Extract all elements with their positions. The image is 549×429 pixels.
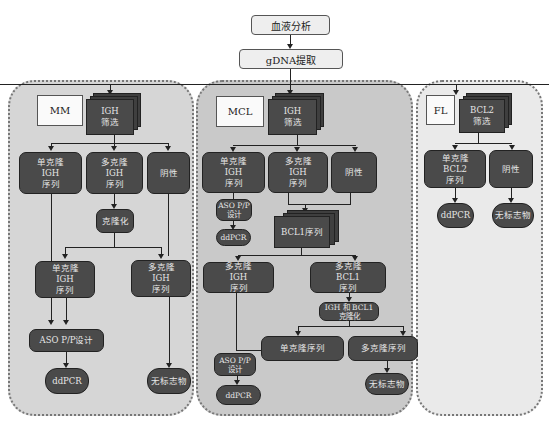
mcl-bcl1-seq-label: BCL1序列	[281, 227, 323, 238]
mcl-poly-seq-node: 多克隆序列	[348, 336, 418, 361]
mcl-poly-igh-label: 多克隆 IGH 序列	[285, 156, 312, 189]
mm-no-marker-label: 无标志物	[151, 376, 187, 387]
mcl-bcl1-seq-node: BCL1序列	[274, 216, 330, 248]
mcl-negative-label: 阴性	[345, 167, 363, 178]
arrow-icon	[165, 146, 171, 151]
arrow-icon	[48, 320, 54, 325]
mcl-mono-seq-node: 单克隆序列	[261, 336, 344, 361]
mm-cloning-node: 克隆化	[96, 209, 134, 233]
connector	[297, 135, 298, 145]
connector	[455, 143, 512, 144]
mcl-label: MCL	[228, 106, 253, 117]
blood-analysis-box: 血液分析	[251, 15, 330, 35]
arrow-icon	[111, 146, 117, 151]
mcl-aso-design-top-label: ASO P/P 设计	[218, 201, 250, 219]
connector	[236, 293, 237, 351]
mm-poly-igh-node-2: 多克隆 IGH 序列	[131, 260, 191, 297]
fl-bcl2-screening-node: BCL2 筛选	[459, 99, 505, 133]
mcl-poly-bcl1-node: 多克隆 BCL1 序列	[310, 262, 386, 293]
mm-negative-node: 阴性	[147, 152, 190, 194]
mcl-mono-seq-label: 单克隆序列	[280, 343, 325, 354]
mcl-poly-igh-node-2: 多克隆 IGH 序列	[203, 262, 274, 293]
distribution-line	[110, 84, 449, 85]
gdna-extraction-box: gDNA提取	[239, 49, 343, 69]
mcl-poly-igh-node: 多克隆 IGH 序列	[268, 152, 328, 193]
arrow-icon	[63, 320, 69, 325]
fl-no-marker-node: 无标志物	[492, 203, 534, 228]
fl-ddpcr-node: ddPCR	[437, 203, 474, 228]
blood-analysis-label: 血液分析	[271, 18, 311, 33]
fl-label: FL	[434, 105, 448, 116]
mcl-aso-design-top-node: ASO P/P 设计	[216, 199, 252, 221]
mm-mono-igh-label-2: 单克隆 IGH 序列	[52, 263, 79, 296]
connector	[51, 143, 169, 144]
connector	[288, 204, 351, 205]
connector	[288, 193, 289, 204]
connector	[301, 248, 302, 255]
connector	[66, 298, 67, 320]
mm-aso-design-label: ASO P/P设计	[40, 335, 94, 346]
connector	[51, 194, 52, 320]
mcl-igh-bcl1-cloning-node: IGH 和 BCL1 克隆化	[319, 302, 379, 321]
connector	[233, 145, 356, 146]
mcl-igh-bcl1-cloning-label: IGH 和 BCL1 克隆化	[325, 303, 373, 321]
mcl-poly-igh-label-2: 多克隆 IGH 序列	[225, 261, 252, 294]
fl-mono-bcl2-node: 单克隆 BCL2 序列	[424, 150, 486, 188]
mcl-mono-igh-label: 单克隆 IGH 序列	[220, 156, 247, 189]
mcl-ddpcr-bottom-label: ddPCR	[225, 390, 251, 401]
mm-negative-label: 阴性	[160, 168, 178, 179]
fl-negative-label: 阴性	[502, 164, 520, 175]
fl-label-box: FL	[426, 95, 455, 125]
mm-poly-igh-label-2: 多克隆 IGH 序列	[148, 262, 175, 295]
mm-label-box: MM	[37, 95, 83, 126]
mm-cloning-label: 克隆化	[102, 216, 129, 227]
fl-no-marker-label: 无标志物	[495, 210, 531, 221]
connector	[478, 133, 479, 143]
mm-mono-igh-label: 单克隆 IGH 序列	[37, 157, 64, 190]
arrow-icon	[62, 254, 68, 259]
mm-poly-igh-label: 多克隆 IGH 序列	[101, 157, 128, 190]
connector	[114, 233, 115, 247]
mm-poly-igh-node: 多克隆 IGH 序列	[86, 152, 143, 194]
mm-mono-igh-node-2: 单克隆 IGH 序列	[35, 261, 95, 298]
connector	[168, 194, 169, 256]
mcl-ddpcr-top-label: ddPCR	[220, 232, 246, 243]
mcl-mono-igh-node: 单克隆 IGH 序列	[202, 152, 265, 193]
connector	[236, 350, 261, 351]
fl-negative-node: 阴性	[489, 150, 533, 188]
mm-label: MM	[50, 105, 70, 116]
mcl-igh-screening-node: IGH 筛选	[268, 99, 317, 135]
mcl-negative-node: 阴性	[331, 152, 377, 193]
mm-ddpcr-node: ddPCR	[45, 368, 89, 394]
mm-ddpcr-label: ddPCR	[52, 376, 82, 387]
mcl-aso-design-bottom-label: ASO P/P 设计	[219, 356, 251, 374]
mm-igh-screening-node: IGH 筛选	[86, 99, 134, 135]
connector	[350, 193, 351, 204]
fl-mono-bcl2-label: 单克隆 BCL2 序列	[442, 153, 469, 186]
mcl-ddpcr-top-node: ddPCR	[216, 229, 251, 246]
mcl-aso-design-bottom-node: ASO P/P 设计	[214, 353, 256, 376]
arrow-icon	[48, 146, 54, 151]
mm-aso-design-node: ASO P/P设计	[29, 329, 104, 352]
mcl-poly-seq-label: 多克隆序列	[361, 343, 406, 354]
mcl-poly-bcl1-label: 多克隆 BCL1 序列	[335, 261, 362, 294]
arrow-icon	[158, 254, 164, 259]
gdna-extraction-label: gDNA提取	[266, 52, 316, 67]
mm-no-marker-node: 无标志物	[147, 368, 191, 394]
connector	[169, 297, 170, 363]
mcl-no-marker-label: 无标志物	[369, 379, 405, 390]
fl-bcl2-screening-label: BCL2 筛选	[470, 105, 494, 127]
connector	[238, 255, 356, 256]
mcl-label-box: MCL	[216, 96, 264, 127]
mm-mono-igh-node: 单克隆 IGH 序列	[19, 152, 82, 194]
mcl-ddpcr-bottom-node: ddPCR	[216, 385, 261, 405]
connector	[65, 247, 162, 248]
connector	[298, 326, 404, 327]
mcl-igh-screening-label: IGH 筛选	[284, 106, 302, 128]
mm-igh-screening-label: IGH 筛选	[101, 106, 119, 128]
mcl-no-marker-node: 无标志物	[365, 373, 409, 395]
fl-ddpcr-label: ddPCR	[441, 210, 471, 221]
